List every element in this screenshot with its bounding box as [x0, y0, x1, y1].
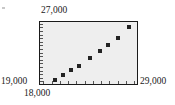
x-axis-tick	[68, 81, 69, 84]
y-axis-tick	[40, 71, 43, 72]
square-marker-icon	[53, 78, 57, 82]
square-marker-icon	[61, 73, 65, 77]
x-axis-tick	[85, 81, 86, 84]
y-axis-tick	[40, 60, 43, 61]
x-axis-tick	[109, 81, 110, 84]
x-axis-tick	[43, 81, 44, 84]
x-axis-tick	[134, 81, 135, 84]
x-axis-tick	[93, 81, 94, 84]
y-axis-tick	[40, 67, 43, 68]
x-axis-tick	[76, 81, 77, 84]
scatter-plot-figure: 27,000 19,000 18,000 29,000	[0, 0, 175, 105]
square-marker-icon	[69, 68, 73, 72]
y-axis-tick	[40, 24, 43, 25]
data-point-5	[88, 56, 92, 60]
square-marker-icon	[116, 36, 120, 40]
data-point-9	[127, 25, 131, 29]
y-axis-tick	[40, 49, 43, 50]
square-marker-icon	[106, 43, 110, 47]
x-axis-tick	[126, 81, 127, 84]
y-axis-tick	[40, 38, 43, 39]
x-axis-tick	[60, 81, 61, 84]
plot-area-inner	[40, 22, 137, 84]
square-marker-icon	[77, 64, 81, 68]
x-axis-min-label: 18,000	[24, 89, 50, 99]
data-point-3	[69, 68, 73, 72]
square-marker-icon	[127, 25, 131, 29]
y-axis-min-label: 19,000	[1, 77, 27, 87]
x-axis-max-label: 29,000	[140, 77, 166, 87]
square-marker-icon	[88, 56, 92, 60]
y-axis-tick	[40, 63, 43, 64]
y-axis-tick	[40, 56, 43, 57]
y-axis-tick	[40, 31, 43, 32]
data-point-8	[116, 36, 120, 40]
y-axis-tick	[40, 42, 43, 43]
data-point-1	[53, 78, 57, 82]
data-point-2	[61, 73, 65, 77]
y-axis-max-label: 27,000	[41, 6, 67, 16]
y-axis-tick	[40, 81, 43, 82]
y-axis-tick	[40, 35, 43, 36]
y-axis-tick	[40, 27, 43, 28]
plot-area-frame	[39, 21, 138, 85]
decorative-speck	[2, 7, 5, 9]
data-point-4	[77, 64, 81, 68]
y-axis-tick	[40, 78, 43, 79]
x-axis-tick	[118, 81, 119, 84]
data-point-6	[98, 49, 102, 53]
y-axis-tick	[40, 74, 43, 75]
x-axis-tick	[101, 81, 102, 84]
y-axis-tick	[40, 53, 43, 54]
y-axis-tick	[40, 45, 43, 46]
square-marker-icon	[98, 49, 102, 53]
data-point-7	[106, 43, 110, 47]
